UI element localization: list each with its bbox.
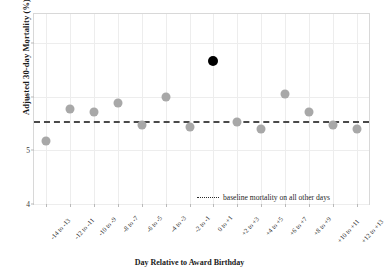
y-axis-tick-mark [31,204,34,205]
x-axis-tick-label: -12 to -11 [73,217,95,241]
x-axis-tick-label: -4 to -3 [169,214,187,233]
x-axis-tick-label: +8 to +9 [312,215,332,236]
y-axis-title: Adjusted 30-day Mortality (%) [21,0,31,137]
data-point[interactable] [257,125,266,134]
baseline-mortality-line [34,121,369,123]
x-axis-tick-label: +4 to +5 [264,215,284,236]
x-axis-tick-mark [190,204,191,207]
x-axis-tick-label: +10 to +11 [336,218,360,244]
y-axis-tick-mark [31,43,34,44]
data-point[interactable] [185,123,194,132]
plot-area: 4567 [33,13,370,205]
gridline-vertical [142,14,143,204]
baseline-legend-line-icon [197,197,219,198]
gridline-horizontal [34,97,369,98]
gridline-vertical [261,14,262,204]
x-axis-tick-mark [118,204,119,207]
x-axis-tick-label: -8 to -7 [121,214,139,233]
gridline-horizontal [34,150,369,151]
x-axis-tick-mark [357,204,358,207]
gridline-vertical [237,14,238,204]
y-axis-tick-mark [31,150,34,151]
gridline-vertical [118,14,119,204]
data-point[interactable] [281,90,290,99]
y-axis-tick-mark [31,96,34,97]
legend-label-baseline: baseline mortality on all other days [223,193,330,202]
x-axis-tick-label: -10 to -9 [97,215,117,237]
x-axis-tick-label: +2 to +3 [240,215,260,236]
data-point-highlighted[interactable] [208,56,218,66]
gridline-vertical [357,14,358,204]
gridline-vertical [190,14,191,204]
x-axis-tick-label: 0 to +1 [216,214,234,233]
data-point[interactable] [305,107,314,116]
gridline-vertical [213,14,214,204]
chart-legend: baseline mortality on all other days [197,193,330,202]
data-point[interactable] [329,121,338,130]
x-axis-title: Day Relative to Award Birthday [0,258,379,267]
x-axis-tick-mark [166,204,167,207]
x-axis-tick-label: -2 to -1 [192,214,210,233]
x-axis-tick-label: +12 to +13 [360,218,385,244]
x-axis-tick-mark [94,204,95,207]
data-point[interactable] [137,121,146,130]
x-axis-tick-mark [285,204,286,207]
data-point[interactable] [233,117,242,126]
x-axis-tick-mark [46,204,47,207]
gridline-vertical [46,14,47,204]
gridline-horizontal [34,204,369,205]
gridline-vertical [333,14,334,204]
x-axis-tick-label: -6 to -5 [145,214,163,233]
gridline-vertical [285,14,286,204]
x-axis-tick-mark [213,204,214,207]
x-axis-tick-label: -14 to -13 [49,217,72,241]
data-point[interactable] [65,104,74,113]
x-axis-tick-mark [333,204,334,207]
gridline-vertical [166,14,167,204]
x-axis-tick-mark [309,204,310,207]
x-axis-tick-mark [261,204,262,207]
x-axis-tick-label: +6 to +7 [288,215,308,236]
data-point[interactable] [113,99,122,108]
data-point[interactable] [41,137,50,146]
data-point[interactable] [161,92,170,101]
x-axis-tick-mark [142,204,143,207]
data-point[interactable] [353,124,362,133]
x-axis-tick-mark [70,204,71,207]
x-axis-tick-mark [237,204,238,207]
gridline-horizontal [34,43,369,44]
data-point[interactable] [89,107,98,116]
